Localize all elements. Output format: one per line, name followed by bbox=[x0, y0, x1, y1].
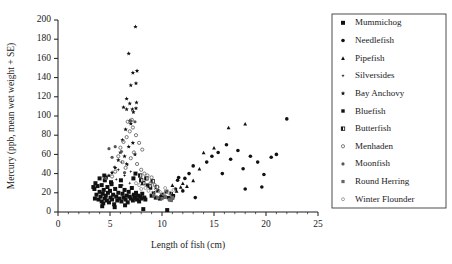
data-point bbox=[210, 155, 214, 159]
legend-label: Menhaden bbox=[355, 141, 393, 151]
data-point bbox=[127, 144, 131, 148]
legend-label: Bay Anchovy bbox=[355, 88, 405, 98]
legend-label: Needlefish bbox=[355, 35, 394, 45]
y-tick-label: 20 bbox=[42, 187, 52, 197]
data-point bbox=[98, 176, 102, 180]
y-tick-label: 200 bbox=[37, 14, 52, 24]
data-point bbox=[131, 176, 135, 180]
legend-label: Winter Flounder bbox=[355, 194, 414, 204]
data-point bbox=[134, 106, 138, 110]
data-point bbox=[117, 155, 120, 158]
data-point bbox=[110, 198, 114, 202]
data-point bbox=[164, 187, 167, 190]
series-silversides bbox=[110, 160, 135, 186]
data-point bbox=[256, 160, 260, 164]
data-point bbox=[107, 147, 110, 150]
data-point bbox=[140, 187, 143, 190]
y-tick-label: 100 bbox=[37, 110, 52, 120]
data-point bbox=[141, 148, 144, 151]
data-point bbox=[130, 186, 134, 190]
data-point bbox=[198, 167, 202, 171]
data-point bbox=[158, 190, 161, 193]
square-half-marker-icon bbox=[341, 127, 344, 130]
legend-label: Butterfish bbox=[355, 123, 391, 133]
data-point bbox=[110, 182, 114, 186]
series-needlefish bbox=[174, 117, 289, 199]
y-tick-label: 80 bbox=[42, 129, 52, 139]
data-point bbox=[105, 185, 109, 189]
data-point bbox=[269, 155, 273, 159]
y-tick-label: 180 bbox=[37, 33, 52, 43]
data-point bbox=[119, 146, 122, 149]
data-point bbox=[120, 192, 124, 196]
data-point bbox=[133, 24, 137, 28]
data-point bbox=[229, 157, 233, 161]
circle-marker-icon bbox=[341, 162, 344, 165]
data-point bbox=[91, 185, 95, 189]
data-point bbox=[120, 150, 123, 153]
data-point bbox=[241, 167, 245, 171]
legend-label: Silversides bbox=[355, 70, 395, 80]
data-point bbox=[131, 71, 135, 75]
data-point bbox=[114, 145, 117, 148]
data-point bbox=[249, 155, 253, 159]
x-tick-label: 20 bbox=[261, 219, 271, 229]
data-point bbox=[191, 179, 195, 183]
data-point bbox=[216, 151, 220, 155]
data-point bbox=[134, 134, 137, 137]
legend-label: Moonfish bbox=[355, 158, 391, 168]
data-point bbox=[113, 166, 117, 170]
data-point bbox=[179, 185, 183, 189]
legend-label: Bluefish bbox=[355, 106, 386, 116]
data-point bbox=[124, 166, 127, 169]
data-point bbox=[181, 189, 185, 193]
data-point bbox=[193, 196, 197, 200]
y-tick-label: 140 bbox=[37, 72, 52, 82]
x-tick-label: 5 bbox=[108, 219, 113, 229]
data-point bbox=[140, 168, 143, 171]
data-point bbox=[141, 207, 145, 211]
data-point bbox=[114, 170, 117, 173]
legend-label: Pipefish bbox=[355, 53, 385, 63]
data-point bbox=[131, 126, 134, 129]
data-points-layer bbox=[91, 24, 288, 212]
data-point bbox=[171, 183, 175, 187]
y-axis-title: Mercury (ppb, mean wet weight + SE) bbox=[6, 43, 17, 190]
data-point bbox=[170, 199, 173, 202]
data-point bbox=[133, 172, 137, 176]
series-mummichog bbox=[91, 172, 174, 212]
data-point bbox=[124, 107, 128, 111]
data-point bbox=[135, 69, 139, 73]
data-point bbox=[143, 198, 147, 202]
data-point bbox=[150, 176, 153, 179]
data-point bbox=[183, 177, 187, 181]
data-point bbox=[185, 184, 189, 188]
data-point bbox=[205, 160, 209, 164]
data-point bbox=[129, 170, 132, 173]
data-point bbox=[140, 192, 144, 196]
data-point bbox=[133, 120, 136, 123]
circle-marker-icon bbox=[341, 39, 345, 43]
square-marker-icon bbox=[341, 21, 345, 25]
data-point bbox=[164, 195, 167, 198]
data-point bbox=[202, 151, 206, 155]
x-tick-label: 0 bbox=[56, 219, 61, 229]
data-point bbox=[262, 173, 266, 177]
data-point bbox=[128, 101, 132, 105]
data-point bbox=[123, 174, 126, 177]
data-point bbox=[160, 197, 163, 200]
data-point bbox=[130, 107, 134, 111]
data-point bbox=[123, 188, 127, 192]
data-point bbox=[129, 157, 132, 160]
data-point bbox=[108, 189, 112, 193]
data-point bbox=[129, 119, 132, 122]
y-tick-label: 0 bbox=[46, 206, 51, 216]
data-point bbox=[134, 81, 138, 85]
data-point bbox=[119, 178, 123, 182]
data-point bbox=[115, 178, 118, 181]
data-point bbox=[172, 188, 175, 191]
data-point bbox=[187, 172, 191, 176]
data-point bbox=[113, 187, 117, 191]
data-point bbox=[125, 136, 128, 139]
legend-label: Mummichog bbox=[355, 17, 402, 27]
